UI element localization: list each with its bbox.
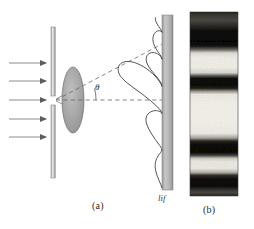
- barrier-upper-plate: [51, 27, 55, 96]
- panel-b-caption: (b): [203, 204, 215, 215]
- barrier-lower-plate: [51, 105, 55, 178]
- observation-screen: [162, 15, 173, 190]
- panel-b-photograph: [190, 12, 238, 196]
- panel-a-diagram: [9, 15, 173, 190]
- incoming-rays-group: [9, 63, 46, 137]
- intensity-curve: [118, 17, 162, 188]
- slit-barrier-group: [51, 27, 55, 178]
- diffraction-photograph: [190, 12, 238, 196]
- panel-a-caption: (a): [92, 200, 104, 211]
- screen-axis-label: lif: [158, 193, 166, 203]
- diffraction-figure-svg: [0, 0, 254, 229]
- theta-angle-label: θ: [95, 82, 99, 92]
- figure-container: θ lif (a) (b): [0, 0, 254, 229]
